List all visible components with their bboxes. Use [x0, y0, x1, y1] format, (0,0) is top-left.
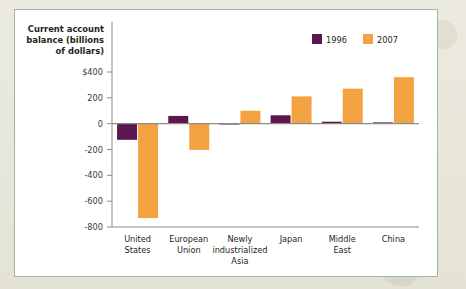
y-axis-tick-label-3: -200: [84, 145, 103, 155]
y-axis-title-line-2: balance (billions: [26, 35, 104, 45]
y-axis-tick-label-6: -800: [84, 222, 103, 232]
x-axis-category-label-1-line-1: Union: [177, 245, 201, 255]
x-axis-category-label-2-line-1: industrialized: [212, 245, 267, 255]
bar-1996-japan[interactable]: [271, 115, 291, 123]
x-axis-category-label-0-line-1: States: [125, 245, 151, 255]
x-axis-category-label-5-line-0: China: [382, 234, 405, 244]
x-axis-category-label-1-line-0: European: [169, 234, 208, 244]
x-axis-category-label-4-line-1: East: [333, 245, 351, 255]
y-axis-tick-label-1: 200: [87, 93, 103, 103]
bar-2007-european-union[interactable]: [189, 124, 209, 150]
x-axis-category-label-2-line-0: Newly: [227, 234, 252, 244]
x-axis-category-label-3-line-0: Japan: [279, 234, 303, 244]
bar-1996-european-union[interactable]: [168, 116, 188, 124]
bar-2007-united-states[interactable]: [138, 124, 158, 218]
y-axis-tick-label-0: $400: [82, 67, 103, 77]
legend-label-2007: 2007: [377, 35, 398, 45]
y-axis-tick-label-5: -600: [84, 196, 103, 206]
bar-2007-middle-east[interactable]: [343, 89, 363, 124]
x-axis-category-label-0-line-0: United: [124, 234, 151, 244]
chart-plot-area: Current accountbalance (billionsof dolla…: [15, 10, 437, 276]
bar-1996-united-states[interactable]: [117, 124, 137, 140]
legend-label-1996: 1996: [326, 35, 347, 45]
bar-chart-svg: Current accountbalance (billionsof dolla…: [15, 10, 436, 275]
bar-2007-newly-industrialized-asia[interactable]: [240, 111, 260, 124]
bar-2007-china[interactable]: [394, 77, 414, 124]
x-axis-category-label-4-line-0: Middle: [329, 234, 356, 244]
bar-2007-japan[interactable]: [292, 96, 312, 123]
legend-swatch-2007[interactable]: [363, 34, 373, 44]
legend-swatch-1996[interactable]: [312, 34, 322, 44]
y-axis-tick-label-2: 0: [98, 119, 103, 129]
y-axis-title-line-3: of dollars): [56, 46, 105, 56]
chart-figure-panel: Current accountbalance (billionsof dolla…: [14, 9, 438, 277]
y-axis-title-line-1: Current account: [28, 24, 104, 34]
y-axis-tick-label-4: -400: [84, 170, 103, 180]
x-axis-category-label-2-line-2: Asia: [231, 256, 248, 266]
